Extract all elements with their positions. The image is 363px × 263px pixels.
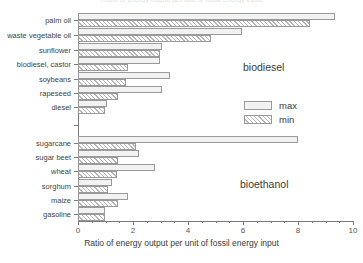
category-label-sugarcane: sugarcane	[36, 139, 71, 148]
category-label-sunflower: sunflower	[39, 46, 71, 55]
x-tick-label-6: 6	[241, 226, 245, 235]
x-tick-9.5	[339, 221, 340, 223]
x-tick-7	[271, 221, 272, 223]
x-tick-label-10: 10	[349, 226, 358, 235]
x-tick-label-4: 4	[186, 226, 190, 235]
x-tick-1.5	[119, 221, 120, 223]
y-tick-group-separator	[74, 125, 79, 126]
bar-min-sugar-beet	[78, 157, 118, 164]
x-axis-title: Ratio of energy output per unit of fossi…	[0, 238, 363, 248]
bar-min-sorghum	[78, 186, 108, 193]
x-tick-6	[243, 221, 244, 225]
legend-swatch-max-icon	[244, 101, 272, 110]
category-label-wheat: wheat	[51, 167, 71, 176]
bar-min-waste-vegetable-oil	[78, 35, 211, 42]
bar-max-sugar-beet	[78, 150, 139, 157]
bar-max-wheat	[78, 164, 155, 171]
bar-max-biodiesel-castor	[78, 57, 160, 64]
x-tick-3.5	[174, 221, 175, 223]
legend: max min	[244, 100, 297, 128]
x-tick-6.5	[257, 221, 258, 223]
legend-swatch-min-icon	[244, 115, 272, 124]
category-label-gasoline: gasoline	[43, 210, 71, 219]
bar-min-soybeans	[78, 79, 126, 86]
bar-min-biodiesel-castor	[78, 64, 128, 71]
x-tick-5.5	[229, 221, 230, 223]
chart-title: Ratio of energy output per unit of fossi…	[0, 0, 363, 3]
bar-max-rapeseed	[78, 86, 162, 93]
x-tick-4.5	[202, 221, 203, 223]
legend-label-max: max	[279, 100, 297, 111]
category-label-biodiesel-castor: biodiesel, castor	[17, 60, 71, 69]
category-label-diesel: diesel	[51, 103, 71, 112]
bar-max-sugarcane	[78, 136, 298, 143]
x-tick-2.5	[147, 221, 148, 223]
legend-item-min: min	[244, 114, 297, 125]
bar-min-maize	[78, 200, 118, 207]
x-tick-1	[106, 221, 107, 223]
legend-label-min: min	[279, 114, 294, 125]
bar-max-palm-oil	[78, 13, 335, 20]
bar-max-gasoline	[78, 207, 105, 214]
x-tick-8	[298, 221, 299, 225]
annotation-biodiesel: biodiesel	[243, 61, 284, 73]
bar-min-wheat	[78, 171, 117, 178]
x-tick-5	[216, 221, 217, 223]
bar-min-gasoline	[78, 214, 105, 221]
x-tick-label-0: 0	[76, 226, 80, 235]
bar-min-palm-oil	[78, 20, 310, 27]
bar-max-sorghum	[78, 179, 112, 186]
x-tick-9	[326, 221, 327, 223]
x-tick-label-8: 8	[296, 226, 300, 235]
category-label-maize: maize	[51, 196, 71, 205]
category-label-palm-oil: palm oil	[45, 16, 71, 25]
category-label-rapeseed: rapeseed	[40, 89, 71, 98]
x-tick-3	[161, 221, 162, 223]
x-tick-4	[188, 221, 189, 225]
annotation-bioethanol: bioethanol	[240, 178, 288, 190]
x-tick-0.5	[92, 221, 93, 223]
legend-item-max: max	[244, 100, 297, 111]
category-label-sugar-beet: sugar beet	[36, 153, 71, 162]
x-tick-10	[353, 221, 354, 225]
bar-min-diesel	[78, 107, 105, 114]
x-tick-7.5	[284, 221, 285, 223]
bar-min-rapeseed	[78, 93, 118, 100]
energy-ratio-bar-chart: Ratio of energy output per unit of fossi…	[0, 0, 363, 263]
bar-max-maize	[78, 193, 128, 200]
x-tick-0	[78, 221, 79, 225]
category-label-sorghum: sorghum	[42, 182, 71, 191]
bar-min-sugarcane	[78, 143, 136, 150]
category-label-soybeans: soybeans	[39, 75, 71, 84]
bar-max-sunflower	[78, 43, 162, 50]
bar-max-waste-vegetable-oil	[78, 28, 242, 35]
category-label-waste-vegetable-oil: waste vegetable oil	[7, 31, 71, 40]
x-tick-8.5	[312, 221, 313, 223]
x-tick-2	[133, 221, 134, 225]
bar-max-diesel	[78, 100, 107, 107]
bar-max-soybeans	[78, 72, 170, 79]
x-tick-label-2: 2	[131, 226, 135, 235]
bar-min-sunflower	[78, 50, 160, 57]
